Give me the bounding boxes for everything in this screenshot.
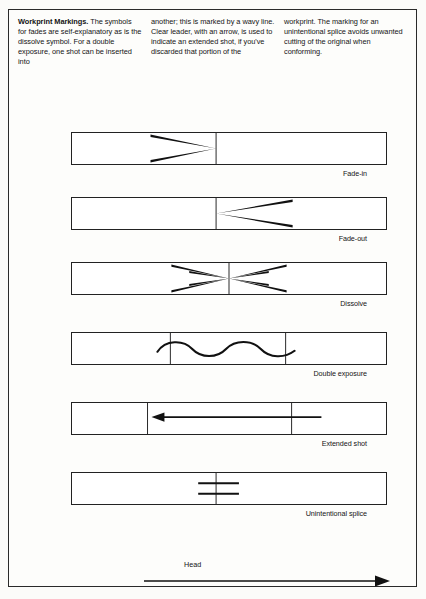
film-strip-extended-shot	[71, 402, 387, 435]
head-direction-group: Head	[9, 560, 416, 599]
film-strip-unintentional-splice	[71, 472, 387, 505]
fade-out-symbol-icon	[72, 198, 386, 229]
strip-label-unintentional-splice: Unintentional splice	[71, 509, 387, 518]
article-lead-title: Workprint Markings.	[18, 17, 88, 26]
strip-row-fade-out: Fade-out	[9, 197, 416, 257]
strip-label-fade-in: Fade-in	[71, 169, 387, 178]
strip-row-extended-shot: Extended shot	[9, 402, 416, 462]
head-label: Head	[184, 560, 201, 569]
strip-label-dissolve: Dissolve	[71, 299, 387, 308]
text-column-3: workprint. The marking for an unintentio…	[284, 17, 408, 67]
strip-row-double-exposure: Double exposure	[9, 332, 416, 392]
text-column-2: another; this is marked by a wavy line. …	[151, 17, 275, 67]
page-frame: Workprint Markings. The symbols for fade…	[8, 9, 417, 587]
text-column-1: Workprint Markings. The symbols for fade…	[18, 17, 142, 67]
strip-row-dissolve: Dissolve	[9, 262, 416, 322]
head-arrow-icon	[144, 574, 394, 588]
extended-shot-symbol-icon	[72, 403, 386, 434]
intro-text-block: Workprint Markings. The symbols for fade…	[18, 17, 409, 67]
text-column-2-body: another; this is marked by a wavy line. …	[151, 17, 274, 56]
strip-row-fade-in: Fade-in	[9, 132, 416, 192]
fade-in-symbol-icon	[72, 133, 386, 164]
film-strip-double-exposure	[71, 332, 387, 365]
unintentional-splice-symbol-icon	[72, 473, 386, 504]
dissolve-symbol-icon	[72, 263, 386, 294]
double-exposure-symbol-icon	[72, 333, 386, 364]
strip-row-unintentional-splice: Unintentional splice	[9, 472, 416, 532]
strip-label-double-exposure: Double exposure	[71, 369, 387, 378]
strip-label-extended-shot: Extended shot	[71, 439, 387, 448]
text-column-3-body: workprint. The marking for an unintentio…	[284, 17, 403, 56]
film-strip-fade-in	[71, 132, 387, 165]
film-strip-fade-out	[71, 197, 387, 230]
strip-label-fade-out: Fade-out	[71, 234, 387, 243]
page-root: Workprint Markings. The symbols for fade…	[0, 0, 426, 599]
film-strip-dissolve	[71, 262, 387, 295]
